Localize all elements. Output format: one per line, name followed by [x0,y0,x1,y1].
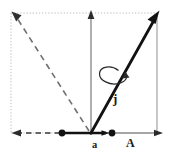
site-dot-left [59,130,66,137]
figure-container: j a A [0,0,172,152]
mirror-vector-dashed [12,12,90,132]
vertical-axis-arrow [88,10,95,133]
site-dot-origin [89,131,92,134]
label-current-density: j [112,91,117,106]
baseline-mirror-dashed [12,129,61,136]
site-dot-right [109,130,116,137]
label-lattice-large: A [126,136,135,150]
label-lattice-small: a [92,139,98,150]
bounding-box-dotted [11,13,157,133]
main-vector-solid [91,11,160,134]
baseline-vector-solid [62,130,109,136]
vector-diagram: j a A [0,0,172,152]
